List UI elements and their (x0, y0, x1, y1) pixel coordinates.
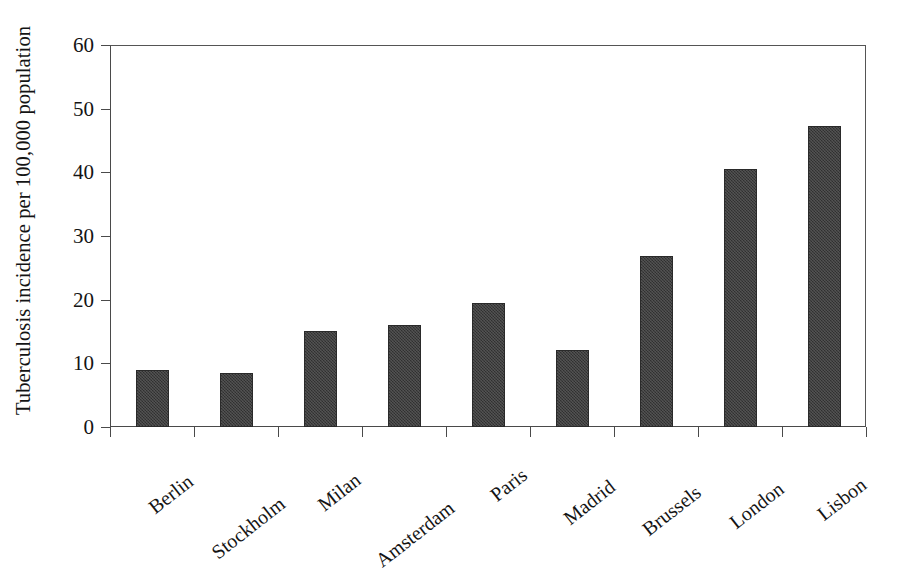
y-tick-mark (101, 172, 110, 173)
y-tick-label: 50 (73, 96, 94, 121)
bar (808, 126, 841, 427)
x-tick-label: Brussels (638, 481, 706, 541)
bar (388, 325, 421, 427)
bar (136, 370, 169, 427)
y-tick-label: 60 (73, 33, 94, 58)
bar (304, 331, 337, 427)
x-tick-label: Paris (486, 464, 532, 507)
x-tick-label: Stockholm (207, 492, 289, 563)
x-tick-mark (446, 427, 447, 437)
y-tick-mark (101, 45, 110, 46)
y-tick-mark (101, 363, 110, 364)
y-axis-title: Tuberculosis incidence per 100,000 popul… (13, 25, 36, 414)
x-tick-label: London (725, 477, 788, 533)
x-tick-label: Madrid (559, 475, 620, 529)
y-tick-mark (101, 427, 110, 428)
y-tick-mark (101, 236, 110, 237)
y-tick-label: 30 (73, 224, 94, 249)
y-tick-mark (101, 300, 110, 301)
x-tick-label: Berlin (144, 470, 198, 519)
x-tick-mark (866, 427, 867, 437)
y-tick-mark (101, 109, 110, 110)
x-tick-label: Lisbon (813, 473, 871, 525)
x-tick-mark (530, 427, 531, 437)
y-tick-label: 40 (73, 160, 94, 185)
x-tick-mark (278, 427, 279, 437)
bar (640, 256, 673, 427)
x-tick-label: Milan (313, 468, 365, 516)
x-tick-mark (110, 427, 111, 437)
y-tick-label: 20 (73, 287, 94, 312)
y-tick-label: 10 (73, 351, 94, 376)
x-tick-mark (698, 427, 699, 437)
y-tick-label: 0 (84, 415, 95, 440)
x-tick-mark (362, 427, 363, 437)
bar (220, 373, 253, 427)
x-tick-label: Amsterdam (371, 496, 459, 572)
x-tick-mark (614, 427, 615, 437)
bar (724, 169, 757, 427)
x-tick-mark (782, 427, 783, 437)
bar (556, 350, 589, 427)
y-axis-title-container: Tuberculosis incidence per 100,000 popul… (0, 0, 48, 440)
bar (472, 303, 505, 427)
x-tick-mark (194, 427, 195, 437)
